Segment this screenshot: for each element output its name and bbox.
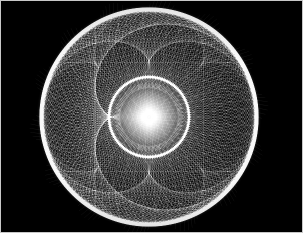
moire-pattern-canvas bbox=[0, 0, 303, 233]
spirograph-image: Spirograph moire interference pattern bbox=[0, 0, 303, 233]
pattern-canvas-holder bbox=[0, 0, 303, 233]
